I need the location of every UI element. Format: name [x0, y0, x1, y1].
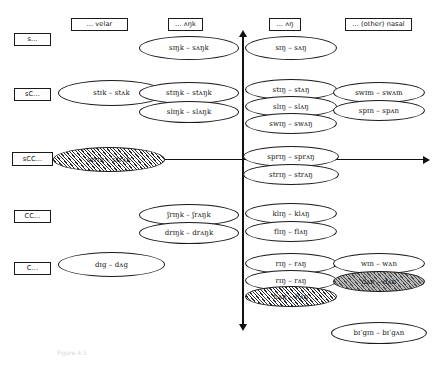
word-pair-ellipse: flɪŋ – flʌŋ — [245, 221, 337, 242]
word-pair-ellipse-hatched: strɪk – strʌk — [53, 147, 165, 172]
word-pair-ellipse: dɪg – dʌg — [58, 252, 165, 277]
word-pair-text: klɪŋ – klʌŋ — [272, 210, 309, 218]
word-pair-ellipse: bɪˈgɪn – bɪˈgʌn — [331, 322, 427, 344]
row-header-s-label: s... — [27, 36, 37, 43]
row-header-CC: CC... — [14, 210, 51, 223]
figure-caption: Figure 4.5 — [57, 349, 87, 356]
column-header-ungk: ... ʌŋk — [168, 18, 203, 31]
word-pair-ellipse: sɪŋ – sʌŋ — [245, 36, 337, 60]
row-header-sCC-label: sCC... — [23, 156, 43, 163]
column-header-velar-label: ... velar — [87, 21, 113, 28]
word-pair-text: sɪŋk – sʌŋk — [169, 44, 209, 52]
word-pair-text: wɪn – wʌn — [361, 260, 397, 268]
figure-canvas: ... velar ... ʌŋk ... ʌŋ ... (other) nas… — [0, 0, 432, 368]
word-pair-text: flɪŋ – flʌŋ — [274, 228, 308, 236]
word-pair-text: swɪŋ – swʌŋ — [269, 120, 312, 128]
word-pair-text: rɪŋ – rʌŋ — [276, 277, 307, 285]
vertical-axis-arrowhead-bottom — [239, 324, 247, 331]
column-header-ung: ... ʌŋ — [269, 18, 301, 31]
word-pair-ellipse: swɪŋ – swʌŋ — [245, 113, 337, 134]
word-pair-text: swɪm – swʌm — [355, 89, 403, 97]
word-pair-text: dʌn – dʌn — [362, 278, 397, 286]
word-pair-text: strɪk – strʌk — [87, 156, 130, 164]
row-header-sC-label: sC... — [25, 91, 40, 98]
row-header-C: C... — [14, 262, 51, 275]
word-pair-ellipse-hatched: hʌŋ – hʌŋ — [245, 286, 337, 307]
word-pair-text: stɪŋ – stʌŋ — [272, 86, 309, 94]
column-header-nasal: ... (other) nasal — [345, 18, 412, 31]
word-pair-text: rɪŋ – rʌŋ — [276, 260, 307, 268]
row-header-sCC: sCC... — [12, 152, 53, 166]
horizontal-axis-arrowhead-right — [423, 156, 430, 164]
word-pair-ellipse: slɪŋk – slʌŋk — [139, 101, 239, 123]
word-pair-text: slɪŋ – slʌŋ — [273, 103, 309, 111]
word-pair-text: sprɪŋ – sprʌŋ — [267, 153, 314, 161]
word-pair-text: stɪk – stʌk — [93, 89, 130, 97]
column-header-velar: ... velar — [71, 18, 128, 31]
row-header-s: s... — [14, 33, 51, 46]
row-header-C-label: C... — [27, 265, 38, 272]
row-header-sC: sC... — [14, 88, 51, 101]
word-pair-text: spɪn – spʌn — [359, 107, 399, 115]
word-pair-text: stɪŋk – stʌŋk — [166, 89, 212, 97]
word-pair-text: ʃrɪŋk – ʃrʌŋk — [167, 211, 210, 219]
column-header-ungk-label: ... ʌŋk — [175, 21, 196, 28]
word-pair-ellipse: strɪŋ – strʌŋ — [243, 164, 339, 185]
word-pair-ellipse: sɪŋk – sʌŋk — [139, 36, 239, 60]
vertical-axis-line — [242, 36, 244, 326]
word-pair-text: drɪŋk – drʌŋk — [165, 229, 214, 237]
word-pair-text: dɪg – dʌg — [95, 261, 128, 269]
word-pair-ellipse: drɪŋk – drʌŋk — [139, 222, 239, 244]
word-pair-text: slɪŋk – slʌŋk — [167, 108, 212, 116]
word-pair-ellipse-shaded: dʌn – dʌn — [333, 271, 425, 292]
column-header-ung-label: ... ʌŋ — [276, 21, 293, 28]
word-pair-ellipse: spɪn – spʌn — [333, 100, 425, 121]
word-pair-text: sɪŋ – sʌŋ — [275, 44, 306, 52]
row-header-CC-label: CC... — [25, 213, 41, 220]
word-pair-text: bɪˈgɪn – bɪˈgʌn — [354, 329, 405, 337]
word-pair-text: strɪŋ – strʌŋ — [269, 171, 313, 179]
column-header-nasal-label: ... (other) nasal — [352, 21, 404, 28]
word-pair-text: hʌŋ – hʌŋ — [274, 293, 309, 301]
